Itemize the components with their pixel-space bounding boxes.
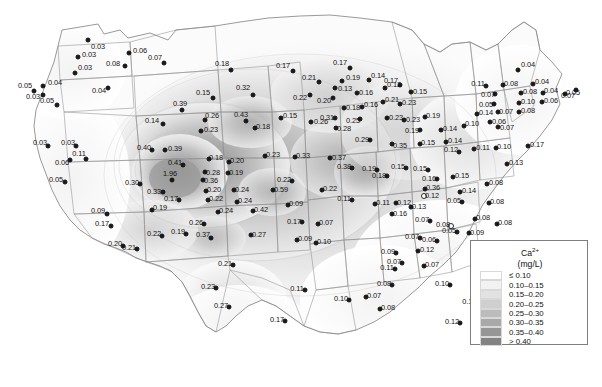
- site-value-label: 0.18: [209, 154, 223, 161]
- site-value-label: 0.07: [405, 233, 419, 240]
- site-value-label: 0.05: [40, 97, 54, 104]
- site-value-label: 0.22: [147, 230, 161, 237]
- legend-title-charge: 2+: [532, 246, 539, 253]
- site-marker: [161, 122, 166, 127]
- site-value-label: 0.08: [489, 179, 503, 186]
- site-marker: [398, 83, 403, 88]
- site-marker: [86, 38, 91, 43]
- site-value-label: 0.11: [471, 80, 484, 87]
- legend-range-label: > 0.40: [509, 337, 531, 346]
- site-value-label: 0.32: [236, 84, 250, 91]
- legend-range-label: 0.35–0.40: [509, 328, 544, 337]
- site-value-label: 0.03: [26, 93, 40, 100]
- site-value-label: 0.07: [148, 54, 162, 61]
- site-value-label: 0.19: [426, 112, 440, 119]
- site-value-label: 0.33: [147, 188, 161, 195]
- site-marker: [516, 68, 521, 73]
- site-value-label: 0.05: [442, 227, 456, 234]
- site-value-label: 0.24: [235, 186, 249, 193]
- site-value-label: 0.04: [544, 87, 558, 94]
- site-value-label: 0.11: [476, 144, 489, 151]
- site-value-label: 0.09: [470, 229, 484, 236]
- site-value-label: 0.42: [254, 206, 268, 213]
- site-marker: [331, 96, 336, 101]
- site-value-label: 0.15: [413, 88, 427, 95]
- site-value-label: 0.14: [443, 125, 457, 132]
- site-marker: [291, 69, 296, 74]
- site-value-label: 0.13: [338, 85, 352, 92]
- site-value-label: 0.11: [337, 195, 350, 202]
- site-value-label: 0.08: [377, 280, 391, 287]
- site-value-label: 0.37: [332, 154, 346, 161]
- site-value-label: 0.24: [219, 207, 233, 214]
- site-value-label: 0.15: [413, 165, 427, 172]
- site-value-label: 0.26: [189, 219, 203, 226]
- site-value-label: 0.11: [380, 264, 393, 271]
- site-value-label: 1.96: [163, 170, 177, 177]
- legend-title-parameter: Ca: [521, 248, 532, 258]
- site-value-label: 0.07: [499, 108, 513, 115]
- site-value-label: 0.08: [106, 60, 120, 67]
- site-value-label: 0.06: [422, 236, 436, 243]
- site-value-label: 0.41: [168, 159, 182, 166]
- site-value-label: 0.08: [476, 214, 490, 221]
- site-value-label: 0.08: [523, 88, 537, 95]
- site-value-label: 0.14: [145, 117, 159, 124]
- site-value-label: 0.16: [359, 89, 373, 96]
- site-marker: [309, 120, 314, 125]
- site-value-label: 0.19: [153, 204, 167, 211]
- legend-swatch: [480, 299, 502, 308]
- site-value-label: 0.15: [455, 172, 469, 179]
- site-value-label: 0.40: [137, 144, 151, 151]
- site-value-label: 0.24: [238, 197, 252, 204]
- site-marker: [348, 66, 353, 71]
- site-value-label: 0.07: [319, 219, 333, 226]
- site-marker: [123, 64, 128, 69]
- site-value-label: 0.17: [530, 141, 544, 148]
- site-value-label: 0.12: [425, 192, 439, 199]
- site-value-label: 0.23: [402, 99, 416, 106]
- site-value-label: 0.10: [521, 98, 535, 105]
- site-marker: [229, 68, 234, 73]
- site-value-label: 0.09: [298, 235, 312, 242]
- site-marker: [333, 86, 338, 91]
- ca-concentration-map: 0.030.030.060.070.030.080.050.040.030.04…: [0, 0, 602, 387]
- site-value-label: 0.05: [18, 82, 32, 89]
- site-value-label: 0.18: [256, 123, 270, 130]
- site-value-label: 0.14: [462, 187, 476, 194]
- site-value-label: 0.18: [215, 60, 229, 67]
- site-value-label: 0.29: [355, 136, 369, 143]
- site-marker: [109, 224, 114, 229]
- site-marker: [105, 212, 110, 217]
- site-value-label: 0.19: [171, 228, 185, 235]
- site-value-label: 0.18: [372, 172, 386, 179]
- site-value-label: 0.03: [82, 51, 96, 58]
- site-value-label: 0.43: [234, 111, 248, 118]
- legend-swatch: [480, 290, 502, 299]
- site-value-label: 0.04: [48, 79, 62, 86]
- site-value-label: 0.23: [201, 283, 215, 290]
- legend-title: Ca2+ (mg/L): [471, 246, 589, 269]
- site-marker: [308, 93, 313, 98]
- site-value-label: 0.16: [393, 210, 407, 217]
- site-value-label: 0.23: [204, 126, 218, 133]
- site-value-label: 0.07: [415, 216, 429, 223]
- site-value-label: 0.21: [302, 74, 316, 81]
- site-value-label: 0.12: [420, 246, 434, 253]
- site-value-label: 0.12: [445, 318, 459, 325]
- site-value-label: 0.07: [561, 92, 575, 99]
- site-value-label: 0.03: [78, 64, 92, 71]
- site-value-label: 0.03: [61, 139, 75, 146]
- site-value-label: 0.17: [287, 218, 301, 225]
- legend-range-label: ≤ 0.10: [509, 271, 531, 280]
- site-marker: [73, 71, 78, 76]
- map-legend: Ca2+ (mg/L) ≤ 0.100.10–0.150.15–0.200.20…: [470, 240, 588, 345]
- site-value-label: 0.36: [204, 177, 218, 184]
- site-value-label: 0.23: [266, 151, 280, 158]
- site-value-label: 0.06: [544, 97, 558, 104]
- site-marker: [127, 51, 132, 56]
- site-value-label: 0.38: [337, 163, 351, 170]
- site-value-label: 0.18: [346, 104, 360, 111]
- site-value-label: 0.28: [337, 125, 351, 132]
- site-value-label: 0.59: [274, 186, 288, 193]
